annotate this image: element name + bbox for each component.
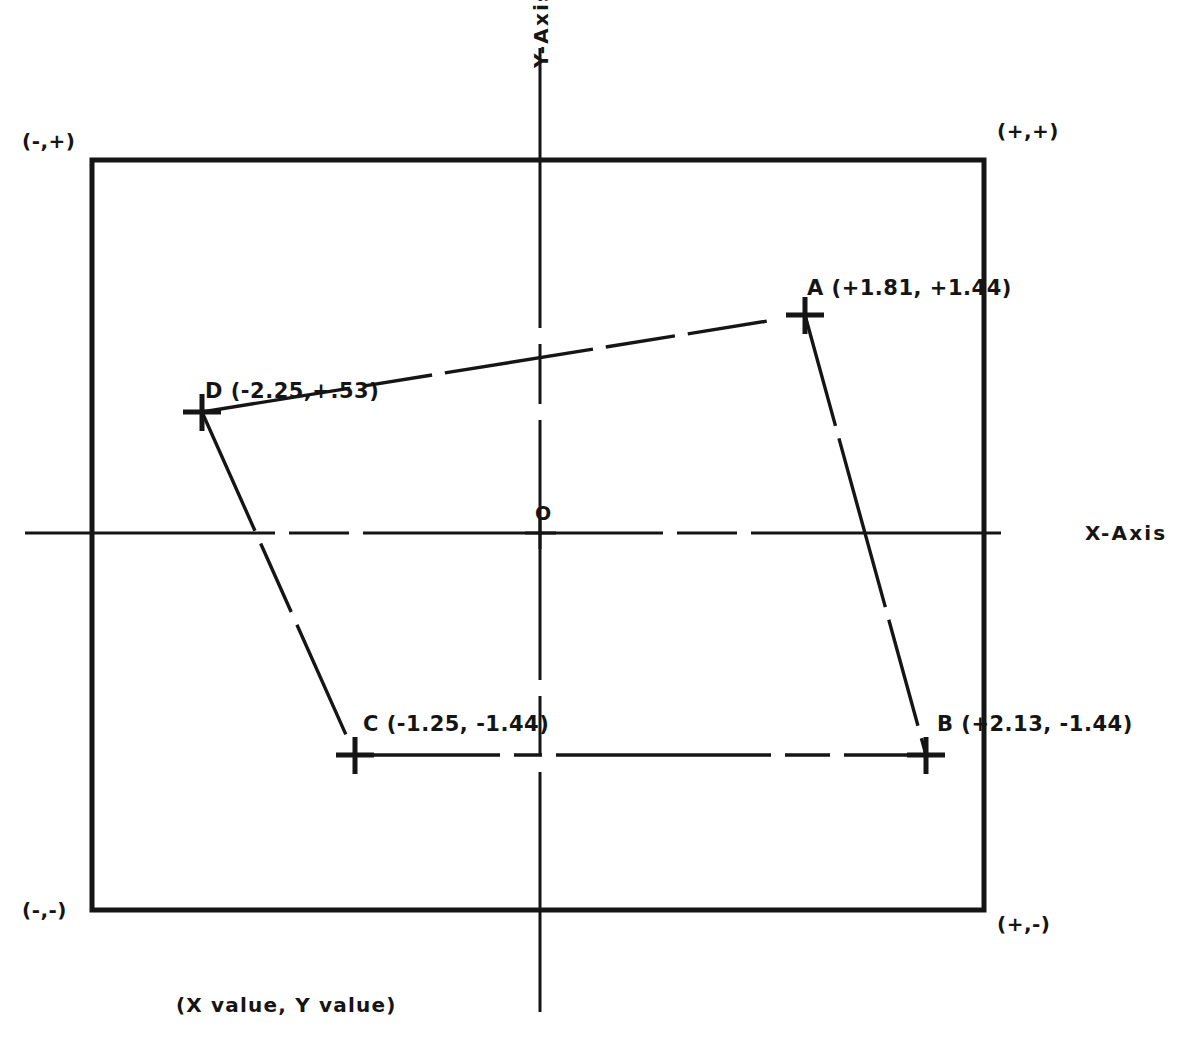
point-label-d: D (-2.25,+.53)	[205, 381, 379, 402]
segment-d-c	[202, 412, 355, 755]
point-marker-c[interactable]	[336, 737, 374, 774]
diagram-canvas: (-,+) (+,+) (-,-) (+,-) X-Axis Y-Axis O …	[0, 0, 1182, 1044]
y-axis-label: Y-Axis	[531, 0, 551, 68]
diagram-vector-layer	[0, 0, 1182, 1044]
point-marker-b[interactable]	[907, 737, 945, 774]
coordinate-format-caption: (X value, Y value)	[176, 995, 397, 1015]
segment-a-b	[805, 315, 926, 755]
origin-label: O	[535, 504, 551, 523]
point-marker-a[interactable]	[786, 297, 824, 334]
point-markers	[183, 297, 945, 774]
quadrant-frame	[92, 160, 984, 910]
x-axis-label: X-Axis	[1085, 523, 1167, 543]
quadrant-label-top-left: (-,+)	[22, 131, 75, 151]
quadrant-label-bottom-left: (-,-)	[22, 900, 67, 920]
quadrant-label-bottom-right: (+,-)	[997, 914, 1050, 934]
point-label-c: C (-1.25, -1.44)	[363, 714, 549, 735]
point-label-a: A (+1.81, +1.44)	[807, 278, 1012, 299]
quadrant-label-top-right: (+,+)	[997, 121, 1059, 141]
point-label-b: B (+2.13, -1.44)	[937, 714, 1133, 735]
